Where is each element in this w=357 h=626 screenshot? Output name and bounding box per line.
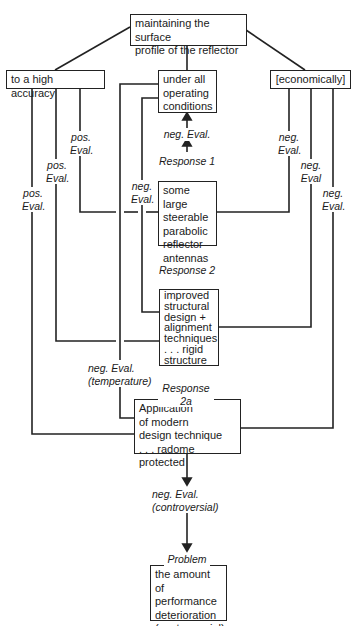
label-pos-eval-3: pos. Eval. — [22, 187, 44, 212]
node-problem: the amount of performance deterioration … — [150, 565, 227, 621]
node-accuracy: to a high accuracy — [6, 70, 105, 89]
label-problem: Problem — [164, 553, 210, 566]
label-neg-eval-right-2: neg. Eval — [300, 159, 322, 184]
label-neg-eval-right-3: neg. Eval. — [322, 187, 344, 212]
node-improved: improved structural design + alignment t… — [159, 289, 219, 366]
label-pos-eval-2: pos. Eval. — [46, 159, 68, 184]
label-neg-eval-left: neg. Eval. — [131, 180, 153, 205]
label-neg-eval-controversial: neg. Eval. (controversial) — [152, 488, 224, 513]
label-response-2a: Response 2a — [158, 382, 214, 407]
label-pos-eval-1: pos. Eval. — [70, 131, 92, 156]
label-response-1: Response 1 — [158, 155, 216, 168]
node-root: maintaining the surface profile of the r… — [130, 14, 247, 46]
node-conditions: under all operating conditions — [158, 70, 217, 113]
label-neg-eval-temperature: neg. Eval. (temperature) — [88, 362, 154, 387]
label-response-2: Response 2 — [158, 264, 216, 277]
node-application: Application of modern design technique .… — [134, 399, 241, 454]
label-neg-eval-right-1: neg. Eval. — [278, 131, 300, 156]
node-antennas: some large steerable parabolic reflector… — [158, 181, 217, 246]
label-resp1-neg-eval: neg. Eval. — [160, 128, 214, 141]
node-economically: [economically] — [270, 70, 351, 89]
